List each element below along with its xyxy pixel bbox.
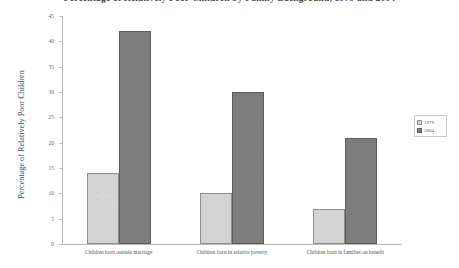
bar-texture: [201, 194, 231, 243]
category-label-0: Children born outside marriage: [85, 249, 153, 255]
legend-label-1979: 1979: [424, 120, 434, 125]
chart-legend: 1979 2004: [414, 115, 447, 137]
bar-2004-2[interactable]: [345, 138, 377, 244]
bar-groups: [62, 16, 402, 244]
bar-group-0: [87, 16, 151, 244]
y-tick-label-15: 15: [48, 165, 54, 171]
legend-item-series-1[interactable]: 2004: [417, 126, 444, 134]
bar-1979-2[interactable]: [313, 209, 345, 244]
y-tick-label-35: 35: [48, 64, 54, 70]
y-axis-title: Percentage of Relatively Poor Children: [17, 40, 26, 230]
bar-2004-1[interactable]: [232, 92, 264, 244]
y-tick-0: 0: [59, 244, 62, 245]
bar-group-2: [313, 16, 377, 244]
bar-chart: Percentage of Relatively Poor Children b…: [0, 0, 459, 268]
legend-item-series-0[interactable]: 1979: [417, 118, 444, 126]
bar-texture: [346, 139, 376, 243]
y-tick-label-40: 40: [48, 38, 54, 44]
y-tick-label-45: 45: [48, 13, 54, 19]
legend-swatch-1979: [417, 120, 422, 125]
y-tick-label-10: 10: [48, 190, 54, 196]
y-tick-label-25: 25: [48, 114, 54, 120]
bar-2004-0[interactable]: [119, 31, 151, 244]
y-tick-label-30: 30: [48, 89, 54, 95]
y-tick-label-20: 20: [48, 140, 54, 146]
legend-swatch-2004: [417, 128, 422, 133]
bar-texture: [88, 174, 118, 243]
legend-label-2004: 2004: [424, 128, 434, 133]
plot-area: 051015202530354045 Children born outside…: [62, 16, 402, 244]
category-label-1: Children born in relative poverty: [197, 249, 268, 255]
y-tick-label-0: 0: [51, 241, 54, 247]
chart-title-cropped: Percentage of Relatively Poor Children b…: [0, 0, 459, 5]
x-axis-line: [62, 244, 402, 245]
chart-title: Percentage of Relatively Poor Children b…: [0, 0, 459, 3]
y-tick-label-5: 5: [51, 216, 54, 222]
bar-1979-1[interactable]: [200, 193, 232, 244]
category-label-2: Children born in families on benefit: [307, 249, 384, 255]
bar-texture: [233, 93, 263, 243]
bar-group-1: [200, 16, 264, 244]
bar-1979-0[interactable]: [87, 173, 119, 244]
bar-texture: [120, 32, 150, 243]
bar-texture: [314, 210, 344, 243]
